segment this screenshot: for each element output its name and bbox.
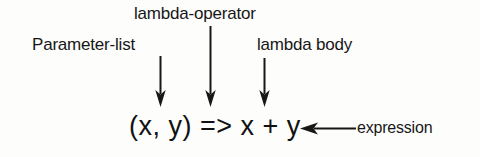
arrow-down-icon-lambda-body bbox=[256, 58, 274, 108]
annotation-label-parameter-list: Parameter-list bbox=[32, 35, 135, 55]
annotation-label-lambda-body: lambda body bbox=[257, 35, 352, 55]
arrow-left-icon-expression bbox=[300, 120, 356, 138]
annotation-label-lambda-operator: lambda-operator bbox=[134, 4, 256, 24]
annotation-label-expression: expression bbox=[357, 118, 432, 138]
lambda-expression-code: (x, y) => x + y bbox=[129, 107, 301, 145]
arrow-down-icon-parameter-list bbox=[152, 56, 170, 108]
arrow-down-icon-lambda-operator bbox=[202, 26, 220, 108]
lambda-syntax-diagram: lambda-operator Parameter-list lambda bo… bbox=[0, 0, 480, 157]
